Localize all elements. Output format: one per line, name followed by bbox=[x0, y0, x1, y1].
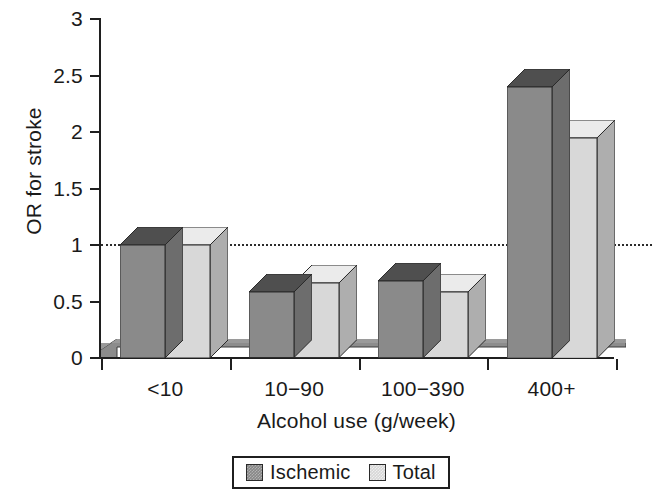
y-tick-label: 2 bbox=[41, 121, 83, 142]
y-axis-line bbox=[99, 18, 101, 358]
bar-shape bbox=[249, 274, 312, 358]
y-tick-mark bbox=[90, 188, 99, 190]
x-axis-title: Alcohol use (g/week) bbox=[99, 409, 614, 433]
y-tick-mark bbox=[90, 357, 99, 359]
x-tick-mark bbox=[101, 359, 103, 370]
x-tick-mark bbox=[230, 359, 232, 370]
legend-item-total: Total bbox=[369, 462, 436, 482]
bar-ischemic bbox=[378, 281, 423, 358]
bar-ischemic bbox=[249, 292, 294, 358]
y-tick-label: 0 bbox=[41, 347, 83, 368]
x-tick-label: 400+ bbox=[487, 377, 616, 401]
y-tick-mark bbox=[90, 18, 99, 20]
x-tick-mark bbox=[616, 359, 618, 370]
y-tick-mark bbox=[90, 244, 99, 246]
y-tick-label: 3 bbox=[41, 8, 83, 29]
bar-shape bbox=[378, 263, 441, 358]
y-tick-label: 1 bbox=[41, 234, 83, 255]
legend-label: Total bbox=[393, 462, 436, 482]
x-tick-label: 100−390 bbox=[359, 377, 488, 401]
legend-item-ischemic: Ischemic bbox=[246, 462, 351, 482]
x-tick-mark bbox=[359, 359, 361, 370]
legend-swatch-icon bbox=[246, 464, 263, 481]
x-tick-mark bbox=[487, 359, 489, 370]
bar-shape bbox=[120, 227, 183, 358]
y-tick-label: 1.5 bbox=[41, 178, 83, 199]
y-tick-mark bbox=[90, 301, 99, 303]
legend-swatch-icon bbox=[369, 464, 386, 481]
y-tick-label: 2.5 bbox=[41, 65, 83, 86]
bar-shape bbox=[507, 69, 570, 358]
bar-ischemic bbox=[507, 87, 552, 358]
y-tick-mark bbox=[90, 75, 99, 77]
x-tick-label: <10 bbox=[101, 377, 230, 401]
chart-legend: Ischemic Total bbox=[232, 456, 450, 489]
bar-chart: 00.511.522.53 <1010−90100−390400+ OR for… bbox=[0, 0, 654, 503]
legend-label: Ischemic bbox=[270, 462, 351, 482]
y-axis-title: OR for stroke bbox=[23, 41, 45, 301]
y-tick-label: 0.5 bbox=[41, 291, 83, 312]
bar-ischemic bbox=[120, 245, 165, 358]
x-tick-label: 10−90 bbox=[230, 377, 359, 401]
y-tick-mark bbox=[90, 131, 99, 133]
